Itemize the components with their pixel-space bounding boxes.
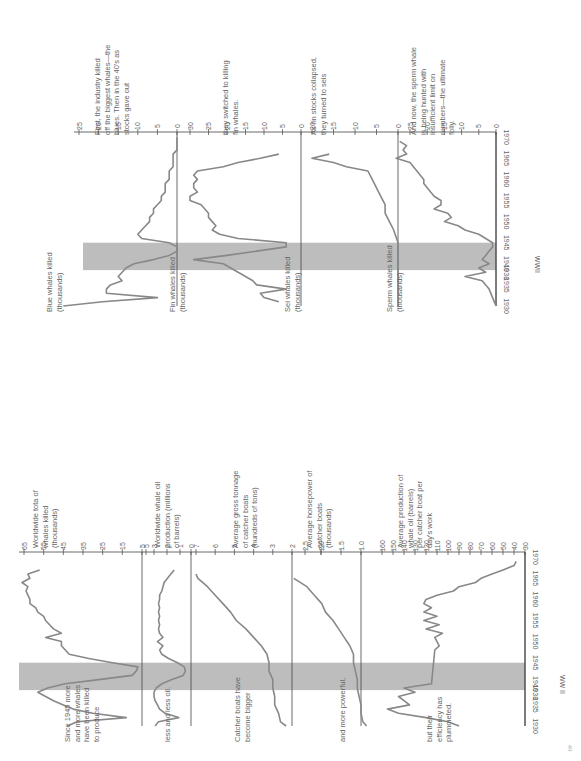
figure-page: 1930193519381940194519501955196019651970… xyxy=(0,0,581,761)
sperm-tick-label: 10 xyxy=(458,122,465,130)
year-tick-1930: 1930 xyxy=(503,298,510,314)
sperm-annotation: is being hunted with xyxy=(419,69,428,135)
sperm-annotation: And now, the sperm whale xyxy=(409,47,418,135)
sperm-annotation: insufficient limit on xyxy=(428,74,437,135)
total-panel-label: (thousands) xyxy=(50,508,59,548)
efficiency-tick-label: 80 xyxy=(467,542,474,550)
fin-tick-label: 30 xyxy=(187,122,194,130)
year-tick-1955: 1955 xyxy=(503,193,510,209)
wwii-label: WWII xyxy=(534,256,541,273)
oil-annotation: less and less oil. xyxy=(163,687,172,742)
chart-industry: 1930193519381940194519501955196019651970… xyxy=(19,540,566,734)
total-tick-label: 25 xyxy=(99,542,106,550)
blue-tick-label: 10 xyxy=(134,122,141,130)
blue-annotation: stocks gave out xyxy=(122,82,131,135)
total-tick-label: 65 xyxy=(21,542,28,550)
total-panel-label: whales killed xyxy=(41,505,50,549)
horsepower-panel-label: (thousands) xyxy=(324,508,333,548)
blue-annotation: off the biggest whales—the xyxy=(103,45,112,135)
tonnage-tick-label: 2 xyxy=(289,544,296,548)
sei-annotation: As fin stocks collapsed, xyxy=(309,57,318,135)
total-panel-label: Worldwide tota of xyxy=(31,489,40,548)
sperm-annotation: folly. xyxy=(447,120,456,135)
blue-panel-label: (thousands) xyxy=(55,272,64,312)
horsepower-panel-label: catcher boats xyxy=(315,503,324,548)
blue-annotation: blues. Then in the 40's as xyxy=(112,50,121,135)
sperm-panel-label: Sperm whales killed xyxy=(385,245,394,312)
page-number: 49 xyxy=(566,745,574,752)
sei-tick-label: 0 xyxy=(395,124,402,128)
wwii-label: WW II xyxy=(559,675,566,694)
fin-tick-label: 0 xyxy=(298,124,305,128)
efficiency-annotation: plummeted. xyxy=(444,703,453,742)
efficiency-panel-label: per catcher boat per xyxy=(415,480,424,548)
year-tick-1945: 1945 xyxy=(532,655,539,671)
sei-panel-label: (thousands) xyxy=(293,272,302,312)
year-tick-1930: 1930 xyxy=(532,718,539,734)
total-tick-label: 35 xyxy=(80,542,87,550)
oil-tick-label: 5 xyxy=(143,544,150,548)
year-tick-1960: 1960 xyxy=(532,592,539,608)
fin-tick-label: 10 xyxy=(261,122,268,130)
efficiency-tick-label: 40 xyxy=(511,542,518,550)
year-tick-1945: 1945 xyxy=(503,235,510,251)
horsepower-tick-label: 1.5 xyxy=(338,541,345,551)
fin-panel-label: (thousands) xyxy=(178,272,187,312)
efficiency-panel-label: day's work xyxy=(425,513,434,548)
total-annotation: Since 1945 more xyxy=(63,685,72,742)
year-tick-1965: 1965 xyxy=(532,571,539,587)
year-tick-1940: 1940 xyxy=(503,256,510,272)
tonnage-panel-label: Average gross tonnage xyxy=(231,471,240,548)
fin-panel-label: Fin whales killed xyxy=(168,257,177,312)
efficiency-tick-label: 100 xyxy=(445,540,452,552)
year-tick-1970: 1970 xyxy=(503,129,510,145)
blue-panel-label: Blue whales killed xyxy=(45,252,54,312)
efficiency-tick-label: 30 xyxy=(522,542,529,550)
efficiency-tick-label: 160 xyxy=(379,540,386,552)
sei-tick-label: 10 xyxy=(352,122,359,130)
fin-tick-label: 5 xyxy=(279,124,286,128)
fin-tick-label: 25 xyxy=(205,122,212,130)
oil-panel-label: Worldwide whale oil xyxy=(153,482,162,548)
fin-tick-label: 15 xyxy=(242,122,249,130)
efficiency-tick-label: 60 xyxy=(489,542,496,550)
blue-series-line xyxy=(63,137,177,306)
year-tick-1965: 1965 xyxy=(503,151,510,167)
efficiency-tick-label: 50 xyxy=(500,542,507,550)
sei-annotation: they turned to seis xyxy=(319,73,328,135)
blue-annotation: First, the industry killed xyxy=(93,58,102,135)
fin-annotation: fin whales. xyxy=(231,100,240,135)
year-tick-1940: 1940 xyxy=(532,676,539,692)
efficiency-tick-label: 70 xyxy=(478,542,485,550)
fin-annotation: they switched to killing xyxy=(221,60,230,135)
horsepower-series-line xyxy=(294,578,367,726)
efficiency-panel-label: whale oil (barrels) xyxy=(406,488,415,549)
efficiency-tick-label: 90 xyxy=(456,542,463,550)
fin-series-line xyxy=(190,154,286,302)
total-tick-label: 15 xyxy=(119,542,126,550)
total-tick-label: 45 xyxy=(60,542,67,550)
whaling-charts: 1930193519381940194519501955196019651970… xyxy=(0,0,581,761)
efficiency-annotation: but their xyxy=(425,714,434,742)
total-annotation: and more whales xyxy=(73,685,82,742)
tonnage-tick-label: 7 xyxy=(193,544,200,548)
efficiency-series-line xyxy=(388,561,517,726)
sperm-panel-label: (thousands) xyxy=(395,272,404,312)
year-tick-1950: 1950 xyxy=(532,634,539,650)
year-tick-1950: 1950 xyxy=(503,214,510,230)
sperm-series-line xyxy=(396,141,496,306)
horsepower-tick-label: 1.0 xyxy=(358,541,365,551)
horsepower-annotation: and more powerful, xyxy=(338,678,347,742)
sei-panel-label: Sei whales killed xyxy=(283,257,292,312)
total-annotation: have been killed xyxy=(82,688,91,742)
blue-tick-label: 5 xyxy=(154,124,161,128)
year-tick-1970: 1970 xyxy=(532,549,539,565)
efficiency-panel-label: Average production of xyxy=(396,474,405,548)
year-tick-1960: 1960 xyxy=(503,172,510,188)
tonnage-tick-label: 6 xyxy=(212,544,219,548)
blue-tick-label: 25 xyxy=(76,122,83,130)
tonnage-annotation: Catcher boats have xyxy=(233,677,242,742)
sperm-tick-label: 5 xyxy=(475,124,482,128)
sei-tick-label: 5 xyxy=(373,124,380,128)
year-tick-1955: 1955 xyxy=(532,613,539,629)
